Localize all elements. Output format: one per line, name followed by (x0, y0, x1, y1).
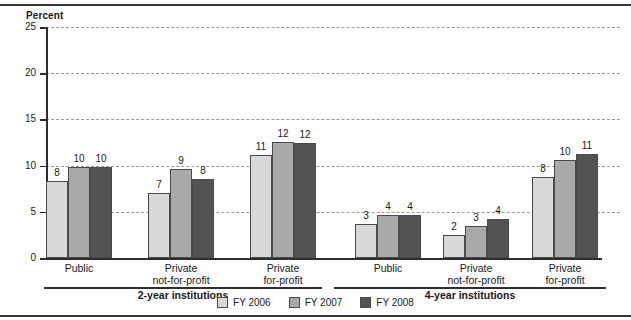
category-label-line: Private (126, 263, 236, 275)
legend-item: FY 2008 (360, 297, 414, 308)
bar (355, 224, 377, 258)
bar (377, 215, 399, 258)
bar (399, 215, 421, 258)
bar (532, 177, 554, 258)
category-label-line: Private (510, 263, 620, 275)
bar-value-label: 7 (144, 179, 174, 190)
plot-area: 0510152025 8101079811121234423481011 Pub… (0, 0, 631, 320)
bar-value-label: 8 (188, 165, 218, 176)
legend-swatch (360, 297, 371, 308)
bar (250, 155, 272, 258)
bar (576, 154, 598, 258)
chart-legend: FY 2006FY 2007FY 2008 (0, 297, 631, 308)
bar-value-label: 12 (290, 129, 320, 140)
legend-label: FY 2007 (305, 297, 343, 308)
category-label-line: for-profit (510, 275, 620, 287)
category-label: Privatenot-for-profit (126, 263, 236, 286)
bar (272, 142, 294, 258)
bar (46, 181, 68, 258)
bar (90, 167, 112, 258)
bar (443, 235, 465, 258)
category-label-line: for-profit (228, 275, 338, 287)
category-label-line: not-for-profit (126, 275, 236, 287)
bar-value-label: 11 (572, 140, 602, 151)
legend-swatch (217, 297, 228, 308)
legend-item: FY 2006 (217, 297, 271, 308)
bar (294, 143, 316, 259)
category-label: Privatefor-profit (228, 263, 338, 286)
bar-value-label: 4 (395, 201, 425, 212)
legend-label: FY 2008 (376, 297, 414, 308)
bar-value-label: 11 (246, 141, 276, 152)
category-label-line: Private (228, 263, 338, 275)
legend-label: FY 2006 (233, 297, 271, 308)
bar (68, 167, 90, 258)
bar (487, 219, 509, 258)
category-label: Privatefor-profit (510, 263, 620, 286)
x-axis-line (46, 258, 602, 260)
bar-value-label: 10 (86, 153, 116, 164)
bar (554, 160, 576, 258)
legend-item: FY 2007 (289, 297, 343, 308)
bar (148, 193, 170, 258)
bar-value-label: 8 (528, 163, 558, 174)
legend-swatch (289, 297, 300, 308)
category-label-line: Public (24, 263, 134, 275)
bar-value-label: 8 (42, 167, 72, 178)
chart-figure: Percent 0510152025 810107981112123442348… (0, 0, 631, 320)
bar (192, 179, 214, 258)
bar-value-label: 4 (483, 205, 513, 216)
category-label: Public (24, 263, 134, 275)
